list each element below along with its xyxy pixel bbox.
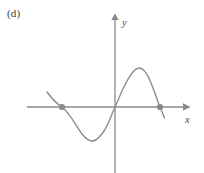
root-point-left (59, 104, 65, 110)
root-point-right (157, 104, 163, 110)
y-axis-arrow-icon (111, 14, 118, 21)
graph-plot: y x (0, 0, 204, 173)
function-curve (47, 68, 165, 141)
figure-panel: (d) y x (0, 0, 204, 173)
x-axis-arrow-icon (183, 103, 191, 111)
x-axis-label: x (184, 114, 190, 125)
y-axis-label: y (121, 17, 127, 28)
